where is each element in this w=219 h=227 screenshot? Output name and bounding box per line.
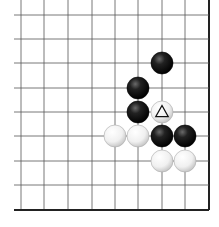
- white-stone: [127, 125, 149, 147]
- white-stone: [151, 150, 173, 172]
- grid-lines: [14, 0, 209, 210]
- black-stone: [127, 77, 149, 99]
- black-stone: [127, 101, 149, 123]
- black-stone: [151, 52, 173, 74]
- white-stone: [104, 125, 126, 147]
- black-stone: [174, 125, 196, 147]
- white-stone: [174, 150, 196, 172]
- go-board: [0, 0, 219, 227]
- white-stone: [151, 101, 173, 123]
- black-stone: [151, 125, 173, 147]
